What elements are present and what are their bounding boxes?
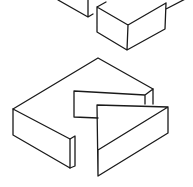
top-block-partial — [58, 0, 93, 17]
lower-block-top-face — [13, 58, 153, 109]
wedge-piece — [97, 105, 168, 176]
upper-block — [97, 0, 193, 50]
notch-inner-edges — [74, 89, 153, 118]
lower-block-front-face — [13, 109, 70, 168]
lower-block-notch-face — [70, 136, 75, 168]
isometric-blocks-figure — [0, 0, 193, 187]
